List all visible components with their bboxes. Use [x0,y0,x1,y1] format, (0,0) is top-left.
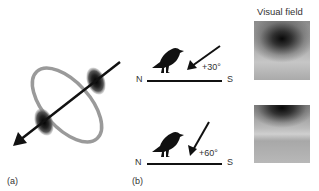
angle-label-30: +30° [202,62,221,72]
visual-field-60 [254,105,310,163]
ground-line-2 [147,163,222,165]
panel-a-label: (a) [7,176,18,186]
bird-icon [150,130,186,160]
north-label-1: N [136,74,143,84]
north-label-2: N [135,157,142,167]
south-label-2: S [227,157,233,167]
south-label-1: S [227,74,233,84]
ground-line-1 [147,80,222,82]
visual-field-title: Visual field [257,6,303,17]
bird-icon [150,46,186,76]
visual-field-30 [254,21,310,80]
panel-b-label: (b) [132,176,143,186]
axis-arrow-head [13,132,27,146]
angle-label-60: +60° [199,148,218,158]
magnetic-axis-diagram [0,0,130,170]
